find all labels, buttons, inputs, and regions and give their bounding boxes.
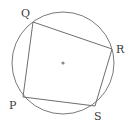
vertex-label-q: Q <box>21 7 30 20</box>
diagram-canvas: Q R S P <box>0 0 130 124</box>
vertex-label-r: R <box>116 43 125 56</box>
vertex-label-p: P <box>9 99 17 112</box>
center-point <box>61 61 64 64</box>
quadrilateral-pqrs <box>23 22 112 106</box>
vertex-label-s: S <box>94 110 102 123</box>
